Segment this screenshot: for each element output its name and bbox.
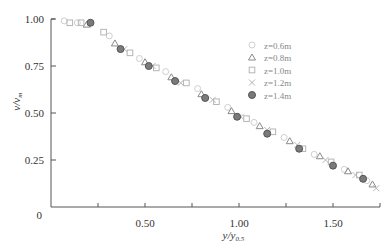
y-tick-label: 0.25: [25, 154, 45, 166]
data-point: [244, 116, 250, 122]
data-point: [296, 145, 303, 152]
legend-item: z=1.2m: [249, 78, 291, 88]
data-point: [172, 78, 179, 85]
x-marker-icon: [249, 80, 255, 86]
data-point: [163, 69, 169, 75]
data-point: [87, 19, 94, 26]
data-point: [106, 33, 112, 39]
y-tick-label: 0.50: [25, 107, 45, 119]
square-marker-icon: [249, 67, 255, 73]
triangle-marker-icon: [249, 54, 256, 60]
data-point: [228, 108, 235, 114]
data-point: [373, 185, 379, 191]
origin-label: 0: [37, 209, 43, 221]
data-point: [101, 29, 107, 35]
legend: z=0.6mz=0.8mz=1.0mz=1.2mz=1.4m: [249, 41, 292, 101]
data-point: [353, 172, 359, 178]
data-point: [210, 97, 216, 103]
data-point: [74, 20, 80, 26]
x-tick-label: 1.00: [229, 217, 249, 229]
legend-label: z=1.4m: [264, 91, 291, 101]
data-point: [195, 86, 201, 92]
data-point: [127, 50, 133, 56]
data-point: [234, 113, 241, 120]
data-point: [145, 63, 152, 70]
legend-label: z=0.8m: [264, 53, 291, 63]
legend-item: z=1.0m: [249, 66, 291, 76]
data-point: [136, 55, 142, 61]
data-point: [117, 46, 124, 53]
y-axis-label: v/vm: [10, 93, 24, 111]
ticks: 0.501.001.500.250.500.751.000: [25, 13, 380, 229]
y-tick-label: 0.75: [25, 60, 45, 72]
y-tick-label: 1.00: [25, 13, 45, 25]
data-point: [111, 40, 118, 46]
data-point: [360, 175, 367, 182]
legend-item: z=0.8m: [249, 53, 292, 63]
legend-label: z=0.6m: [264, 41, 291, 51]
legend-label: z=1.0m: [264, 66, 291, 76]
data-point: [251, 119, 257, 125]
data-point: [61, 18, 67, 24]
data-point: [330, 162, 337, 169]
data-point: [311, 151, 317, 157]
x-axis-label: y/y0.5: [222, 229, 245, 243]
data-point: [202, 94, 209, 101]
legend-item: z=1.4m: [249, 91, 292, 101]
data-point: [345, 168, 352, 174]
axes: [51, 19, 380, 207]
x-tick-label: 0.50: [135, 217, 155, 229]
data-point: [67, 20, 73, 26]
series-z=1.0m: [67, 20, 362, 178]
legend-item: z=0.6m: [249, 41, 291, 51]
scatter-chart: 0.501.001.500.250.500.751.000 z=0.6mz=0.…: [0, 0, 388, 248]
data-point: [184, 80, 190, 86]
data-points: [61, 18, 379, 191]
legend-label: z=1.2m: [264, 78, 291, 88]
series-z=1.2m: [121, 46, 379, 191]
data-point: [225, 104, 231, 110]
data-point: [281, 134, 287, 140]
open-circle-marker-icon: [249, 42, 255, 48]
filled-circle-marker-icon: [249, 92, 256, 99]
x-tick-label: 1.50: [323, 217, 343, 229]
data-point: [264, 130, 271, 137]
series-z=1.4m: [87, 19, 367, 182]
data-point: [322, 157, 328, 163]
axis-labels: y/y0.5v/vm: [10, 93, 245, 243]
